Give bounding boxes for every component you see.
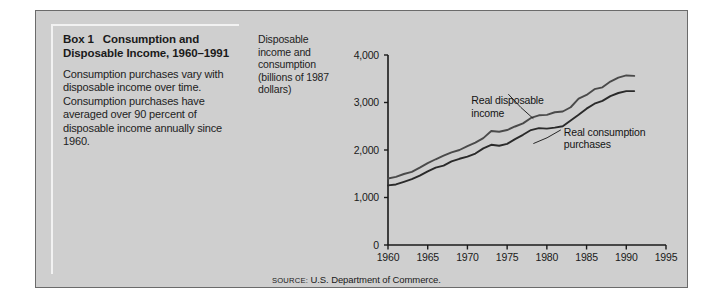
- x-axis-ticks: 19601965197019751980198519901995: [377, 245, 678, 263]
- source-text: U.S. Department of Commerce.: [311, 274, 441, 285]
- x-tick-label: 1960: [377, 251, 400, 263]
- y-tick-label: 4,000: [354, 49, 380, 61]
- annotation-consumption: Real consumption: [564, 126, 646, 138]
- y-axis-caption: Disposable income and consumption (billi…: [258, 33, 336, 96]
- annotation-disposable-income: Real disposable: [471, 94, 544, 106]
- y-tick-label: 0: [373, 239, 379, 251]
- x-tick-label: 1980: [536, 251, 559, 263]
- figure-root: Box 1Consumption and Disposable Income, …: [0, 0, 710, 304]
- annotation-leader-line: [533, 130, 560, 144]
- source-label: SOURCE:: [272, 276, 308, 285]
- chart-annotations: Real disposableincomeReal consumptionpur…: [471, 94, 645, 150]
- x-tick-label: 1990: [615, 251, 638, 263]
- y-tick-label: 1,000: [354, 191, 380, 203]
- x-tick-label: 1965: [416, 251, 439, 263]
- annotation-disposable-income: income: [471, 107, 504, 119]
- chart-svg: 01,0002,0003,0004,000 196019651970197519…: [326, 29, 676, 279]
- box-title-number: Box 1: [63, 33, 94, 45]
- y-axis-ticks: 01,0002,0003,0004,000: [354, 49, 388, 251]
- figure-panel: Box 1Consumption and Disposable Income, …: [35, 10, 688, 288]
- box-title: Box 1Consumption and Disposable Income, …: [63, 33, 235, 60]
- box-text-panel: Box 1Consumption and Disposable Income, …: [51, 24, 239, 274]
- x-tick-label: 1985: [575, 251, 598, 263]
- x-tick-label: 1975: [496, 251, 519, 263]
- y-tick-label: 2,000: [354, 144, 380, 156]
- box-body-text: Consumption purchases vary with disposab…: [63, 68, 235, 148]
- x-tick-label: 1995: [655, 251, 678, 263]
- source-line: SOURCE: U.S. Department of Commerce.: [272, 274, 441, 285]
- annotation-consumption: purchases: [564, 138, 611, 150]
- x-tick-label: 1970: [456, 251, 479, 263]
- line-chart: 01,0002,0003,0004,000 196019651970197519…: [326, 29, 676, 279]
- y-tick-label: 3,000: [354, 96, 380, 108]
